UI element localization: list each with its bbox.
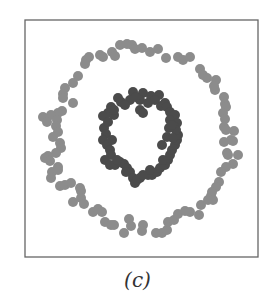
data-point — [79, 199, 89, 209]
data-point — [98, 52, 108, 62]
data-point — [229, 126, 239, 136]
data-point — [219, 137, 229, 147]
data-points — [38, 39, 243, 238]
scatter-figure: (c) — [0, 0, 275, 306]
inner-ring-series — [98, 87, 183, 188]
data-point — [223, 150, 233, 160]
data-point — [66, 178, 76, 188]
data-point — [68, 98, 78, 108]
data-point — [194, 210, 204, 220]
data-point — [137, 226, 147, 236]
data-point — [110, 51, 120, 61]
data-point — [208, 195, 218, 205]
scatter-plot — [0, 0, 275, 306]
data-point — [168, 133, 178, 143]
data-point — [121, 167, 131, 177]
data-point — [58, 93, 68, 103]
data-point — [161, 53, 171, 63]
data-point — [145, 165, 155, 175]
data-point — [45, 156, 55, 166]
data-point — [53, 165, 63, 175]
data-point — [158, 155, 168, 165]
outer-ring-series — [38, 39, 243, 238]
data-point — [153, 44, 163, 54]
data-point — [150, 95, 160, 105]
data-point — [109, 220, 119, 230]
data-point — [112, 155, 122, 165]
data-point — [97, 207, 107, 217]
data-point — [46, 173, 56, 183]
data-point — [119, 228, 129, 238]
data-point — [185, 207, 195, 217]
figure-caption: (c) — [0, 268, 275, 292]
data-point — [209, 81, 219, 91]
data-point — [131, 92, 141, 102]
data-point — [138, 108, 148, 118]
data-point — [233, 150, 243, 160]
data-point — [120, 100, 130, 110]
data-point — [80, 59, 90, 69]
data-point — [109, 105, 119, 115]
data-point — [107, 135, 117, 145]
data-point — [103, 117, 113, 127]
data-point — [42, 117, 52, 127]
data-point — [216, 167, 226, 177]
data-point — [167, 120, 177, 130]
data-point — [202, 73, 212, 83]
data-point — [228, 136, 238, 146]
data-point — [185, 52, 195, 62]
